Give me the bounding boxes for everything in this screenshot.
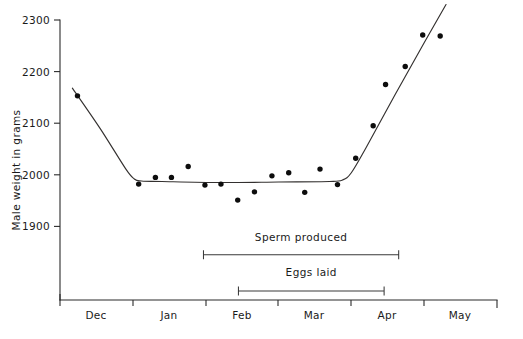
x-tick-label-jan: Jan xyxy=(159,309,177,321)
x-axis-tick-labels: Dec Jan Feb Mar Apr May xyxy=(85,309,471,321)
data-point xyxy=(286,170,291,175)
x-tick-label-dec: Dec xyxy=(85,309,106,321)
data-point xyxy=(383,82,388,87)
eggs-laid-range-bar xyxy=(238,286,384,295)
y-axis-group: 2300 2200 2100 2000 1900 Male weight in … xyxy=(10,14,60,300)
x-tick-label-mar: Mar xyxy=(304,309,325,321)
sperm-produced-range-bar xyxy=(203,250,398,259)
data-point xyxy=(169,175,174,180)
data-point xyxy=(317,166,322,171)
y-axis-ticks xyxy=(54,20,60,226)
data-point xyxy=(202,182,207,187)
data-point xyxy=(75,93,80,98)
data-point xyxy=(335,182,340,187)
x-tick-label-apr: Apr xyxy=(377,309,396,321)
data-point xyxy=(370,123,375,128)
annotation-eggs-laid: Eggs laid xyxy=(238,266,384,295)
sperm-produced-label: Sperm produced xyxy=(255,231,347,243)
data-point xyxy=(252,189,257,194)
x-tick-label-may: May xyxy=(449,309,472,321)
data-point xyxy=(218,181,223,186)
y-tick-label-2300: 2300 xyxy=(22,14,50,26)
x-axis-group: Dec Jan Feb Mar Apr May xyxy=(60,294,497,321)
fitted-trend-curve xyxy=(72,5,446,183)
data-point xyxy=(153,175,158,180)
x-axis-ticks xyxy=(60,294,497,308)
data-point xyxy=(403,64,408,69)
data-point xyxy=(235,197,240,202)
chart-figure: 2300 2200 2100 2000 1900 Male weight in … xyxy=(0,0,523,339)
data-point xyxy=(269,173,274,178)
data-point xyxy=(437,33,442,38)
y-tick-label-2100: 2100 xyxy=(22,117,50,129)
y-tick-label-2000: 2000 xyxy=(22,169,50,181)
y-axis-tick-labels: 2300 2200 2100 2000 1900 xyxy=(22,14,50,232)
x-tick-label-feb: Feb xyxy=(232,309,252,321)
data-point xyxy=(185,164,190,169)
data-point xyxy=(420,32,425,37)
annotation-sperm-produced: Sperm produced xyxy=(203,231,398,259)
eggs-laid-label: Eggs laid xyxy=(286,266,337,278)
data-point xyxy=(136,181,141,186)
y-tick-label-2200: 2200 xyxy=(22,66,50,78)
data-point xyxy=(353,156,358,161)
data-points-group xyxy=(75,32,443,203)
data-point xyxy=(302,190,307,195)
y-axis-title: Male weight in grams xyxy=(10,110,22,231)
y-tick-label-1900: 1900 xyxy=(22,220,50,232)
chart-svg: 2300 2200 2100 2000 1900 Male weight in … xyxy=(0,0,523,339)
